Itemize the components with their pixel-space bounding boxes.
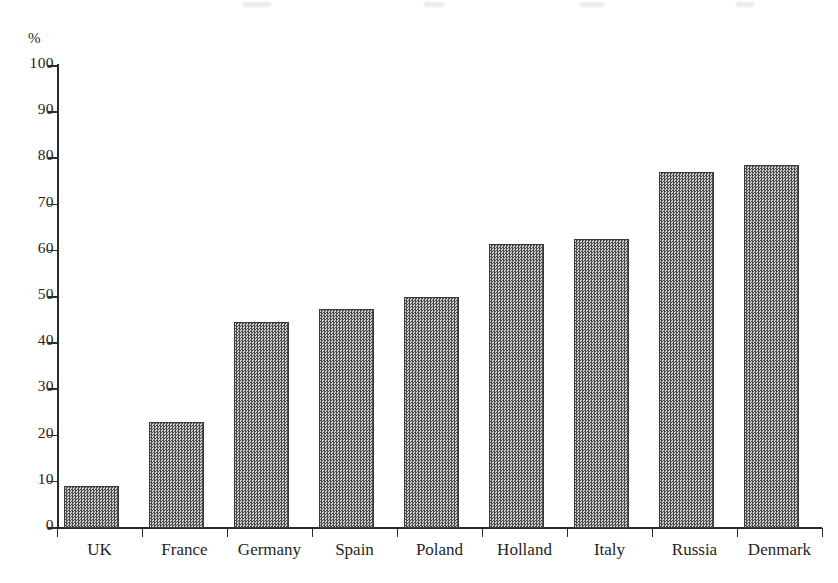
y-axis-tick-mark	[48, 157, 57, 159]
x-axis-tick-mark	[737, 528, 738, 537]
y-axis-tick-label: 10	[38, 470, 54, 488]
y-axis-title: %	[28, 30, 41, 47]
bar-slot	[142, 64, 227, 528]
bar-slot	[227, 64, 312, 528]
x-axis-tick-mark	[312, 528, 313, 537]
x-axis-tick-mark	[397, 528, 398, 537]
y-axis-tick-mark	[48, 388, 57, 390]
x-axis-tick-mark	[227, 528, 228, 537]
bar[interactable]	[64, 486, 119, 528]
y-axis-tick-mark	[48, 111, 57, 113]
y-axis-tick-label: 70	[38, 193, 54, 211]
y-axis-tick-label: 80	[38, 146, 54, 164]
bar-chart-figure: % 0102030405060708090100 UKFranceGermany…	[0, 0, 838, 583]
bar-slot	[652, 64, 737, 528]
bar[interactable]	[149, 422, 204, 528]
bar[interactable]	[404, 297, 459, 528]
y-axis-tick-label: 30	[38, 377, 54, 395]
x-axis-tick-mark	[482, 528, 483, 537]
y-axis-tick-mark	[48, 204, 57, 206]
scan-artifact	[424, 2, 444, 7]
bar[interactable]	[319, 309, 374, 528]
x-axis-tick-mark	[142, 528, 143, 537]
bar-slot	[312, 64, 397, 528]
x-axis-tick-mark	[57, 528, 58, 537]
x-axis-tick-mark	[822, 528, 823, 537]
bar[interactable]	[234, 322, 289, 528]
y-axis-tick-label: 40	[38, 331, 54, 349]
bar-slot	[567, 64, 652, 528]
y-axis-tick-mark	[48, 435, 57, 437]
bar[interactable]	[744, 165, 799, 528]
bar-slot	[57, 64, 142, 528]
y-axis-tick-mark	[48, 342, 57, 344]
scan-artifact	[243, 2, 271, 7]
y-axis-tick-label: 100	[30, 54, 54, 72]
y-axis-tick-label: 60	[38, 239, 54, 257]
bar-slot	[482, 64, 567, 528]
scan-artifact	[580, 2, 604, 7]
plot-area	[57, 64, 822, 528]
x-axis-tick-mark	[567, 528, 568, 537]
y-axis-tick-mark	[48, 296, 57, 298]
x-axis-tick-mark	[652, 528, 653, 537]
y-axis-tick-mark	[48, 250, 57, 252]
y-axis-tick-label: 0	[46, 516, 54, 534]
y-axis-tick-label: 90	[38, 100, 54, 118]
bar-slot	[737, 64, 822, 528]
y-axis-tick-label: 20	[38, 424, 54, 442]
scan-artifact	[736, 2, 754, 7]
bar-slot	[397, 64, 482, 528]
y-axis-tick-label: 50	[38, 285, 54, 303]
bar[interactable]	[574, 239, 629, 528]
y-axis-tick-mark	[48, 481, 57, 483]
x-axis-tick-label: Denmark	[720, 540, 838, 560]
bar[interactable]	[489, 244, 544, 528]
y-axis-tick-mark	[48, 65, 57, 67]
bar[interactable]	[659, 172, 714, 528]
y-axis-tick-mark	[48, 527, 57, 529]
